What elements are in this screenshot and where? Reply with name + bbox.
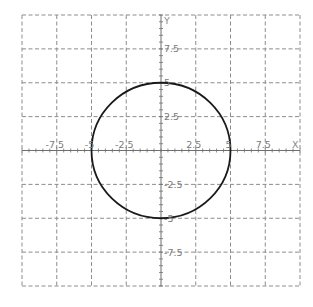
x-tick-label: -2.5 [115,139,134,150]
y-tick-label: 2.5 [164,111,179,122]
y-tick-label: 5 [164,77,170,88]
x-tick-label: -7.5 [45,139,64,150]
y-tick-label: -2.5 [164,179,183,190]
x-tick-label: 7.5 [256,139,271,150]
tick-labels: -7.5-5-2.52.557.57.552.5-2.5-5-7.5XY [45,15,299,258]
x-tick-label: -5 [85,139,94,150]
y-tick-label: -7.5 [164,247,183,258]
y-tick-label: 7.5 [164,43,179,54]
coordinate-plane: -7.5-5-2.52.557.57.552.5-2.5-5-7.5XY [0,0,313,307]
x-tick-label: 2.5 [186,139,201,150]
axis-ticks [22,15,300,286]
x-tick-label: 5 [225,139,231,150]
y-tick-label: -5 [164,213,173,224]
y-axis-label: Y [163,15,170,26]
x-axis-label: X [292,139,299,150]
